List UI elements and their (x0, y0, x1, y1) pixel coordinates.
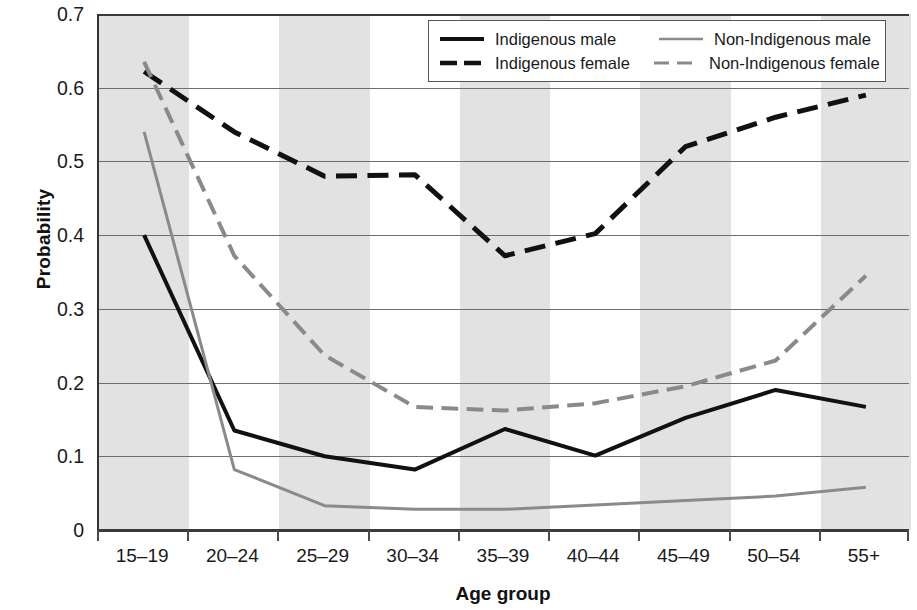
x-axis-title: Age group (97, 583, 909, 605)
line-dashed-gray-icon (653, 56, 699, 70)
y-tick-label: 0.5 (24, 150, 84, 173)
x-tick-mark (638, 530, 640, 541)
line-solid-gray-icon (658, 32, 704, 46)
y-tick-label: 0.1 (24, 445, 84, 468)
legend-item-indigenous-female: Indigenous female (439, 51, 653, 75)
y-tick-label: 0.2 (24, 371, 84, 394)
x-tick-label: 35–39 (477, 545, 530, 567)
x-tick-mark (368, 530, 370, 541)
y-axis-tick-labels: 00.10.20.30.40.50.60.7 (22, 0, 84, 610)
chart-figure: Probability 00.10.20.30.40.50.60.7 15–19… (0, 0, 917, 610)
chart-legend: Indigenous male Non-Indigenous male Indi… (428, 20, 886, 82)
y-tick-label: 0.7 (24, 3, 84, 26)
x-tick-label: 30–34 (386, 545, 439, 567)
x-axis-tick-labels: 15–1920–2425–2930–3435–3940–4445–4950–54… (97, 545, 909, 573)
series-line-non-indigenous-male (144, 132, 866, 509)
x-tick-mark (187, 530, 189, 541)
x-tick-mark (819, 530, 821, 541)
x-tick-mark (729, 530, 731, 541)
legend-label: Indigenous male (495, 30, 616, 49)
y-tick-label: 0.3 (24, 297, 84, 320)
series-line-indigenous-female (144, 71, 866, 255)
legend-label: Indigenous female (495, 54, 630, 73)
x-tick-label: 20–24 (206, 545, 259, 567)
series-lines (99, 14, 911, 530)
line-solid-black-icon (439, 32, 485, 46)
plot-area (97, 14, 909, 530)
x-axis-tick-marks (97, 530, 909, 542)
y-tick-label: 0 (24, 519, 84, 542)
legend-row: Indigenous male Non-Indigenous male (439, 27, 877, 51)
x-tick-label: 25–29 (296, 545, 349, 567)
x-tick-label: 50–54 (747, 545, 800, 567)
x-tick-mark (277, 530, 279, 541)
line-dashed-black-icon (439, 56, 485, 70)
x-tick-mark (458, 530, 460, 541)
legend-row: Indigenous female Non-Indigenous female (439, 51, 877, 75)
x-tick-mark (907, 530, 909, 541)
series-line-indigenous-male (144, 235, 866, 469)
y-tick-label: 0.4 (24, 224, 84, 247)
x-tick-label: 45–49 (657, 545, 710, 567)
x-tick-label: 55+ (848, 545, 880, 567)
legend-label: Non-Indigenous female (709, 54, 880, 73)
x-tick-label: 15–19 (116, 545, 169, 567)
x-tick-label: 40–44 (567, 545, 620, 567)
legend-item-indigenous-male: Indigenous male (439, 27, 658, 51)
x-tick-mark (97, 530, 99, 541)
x-tick-mark (548, 530, 550, 541)
y-tick-label: 0.6 (24, 76, 84, 99)
legend-label: Non-Indigenous male (714, 30, 871, 49)
series-line-non-indigenous-female (144, 62, 866, 411)
legend-item-non-indigenous-male: Non-Indigenous male (658, 27, 877, 51)
legend-item-non-indigenous-female: Non-Indigenous female (653, 51, 877, 75)
